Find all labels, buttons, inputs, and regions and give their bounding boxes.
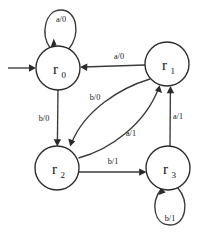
transition-r1-r0-label: a/0 [114, 52, 124, 61]
state-label-r2: r [52, 161, 57, 177]
transition-r3-r1-arrow-head [167, 86, 174, 93]
state-circle-r0 [36, 46, 80, 90]
transition-r0-r0[interactable]: a/0 [45, 10, 76, 50]
state-label-r3: r [163, 161, 168, 177]
fsm-canvas: a/0 a/0 b/0 b/0 a/1 [0, 0, 203, 232]
start-arrow-head [29, 64, 36, 71]
transition-r1-r0[interactable]: a/0 [80, 52, 145, 71]
state-node-r1[interactable]: r 1 [145, 42, 189, 86]
transition-r0-r0-label: a/0 [56, 15, 66, 24]
transition-r1-r2[interactable]: b/0 [68, 79, 150, 146]
transition-r2-r1-arrow-head [155, 85, 162, 93]
transition-r1-r2-arrow-head [68, 139, 75, 147]
state-label-r1: r [162, 57, 167, 73]
transition-r1-r0-path [83, 65, 145, 67]
state-subscript-r0: 0 [62, 70, 67, 80]
fsm-diagram: a/0 a/0 b/0 b/0 a/1 [0, 0, 203, 232]
transition-r2-r3-label: b/1 [108, 157, 118, 166]
transition-r0-r2-label: b/0 [39, 114, 49, 123]
state-circle-r1 [145, 42, 189, 86]
transition-r3-r3-label: b/1 [165, 214, 175, 223]
state-node-r2[interactable]: r 2 [35, 146, 79, 190]
transition-r3-r1-label: a/1 [173, 112, 183, 121]
transition-r3-r1[interactable]: a/1 [167, 86, 183, 146]
state-node-r0[interactable]: r 0 [36, 46, 80, 90]
state-circle-r2 [35, 146, 79, 190]
state-label-r0: r [53, 61, 58, 77]
transition-r1-r2-label: b/0 [90, 93, 100, 102]
state-node-r3[interactable]: r 3 [146, 146, 190, 190]
state-subscript-r1: 1 [171, 66, 176, 76]
state-circle-r3 [146, 146, 190, 190]
transition-r2-r3[interactable]: b/1 [79, 157, 147, 176]
transition-r1-r2-path [72, 79, 151, 143]
transition-r0-r2-path [57, 90, 58, 143]
transition-r1-r0-arrow-head [80, 64, 87, 71]
transition-r0-r2[interactable]: b/0 [39, 90, 61, 147]
transition-r2-r1-label: a/1 [126, 129, 136, 138]
state-subscript-r3: 3 [172, 170, 177, 180]
state-subscript-r2: 2 [61, 170, 66, 180]
start-arrow [8, 64, 36, 71]
transition-r3-r3[interactable]: b/1 [155, 188, 185, 226]
